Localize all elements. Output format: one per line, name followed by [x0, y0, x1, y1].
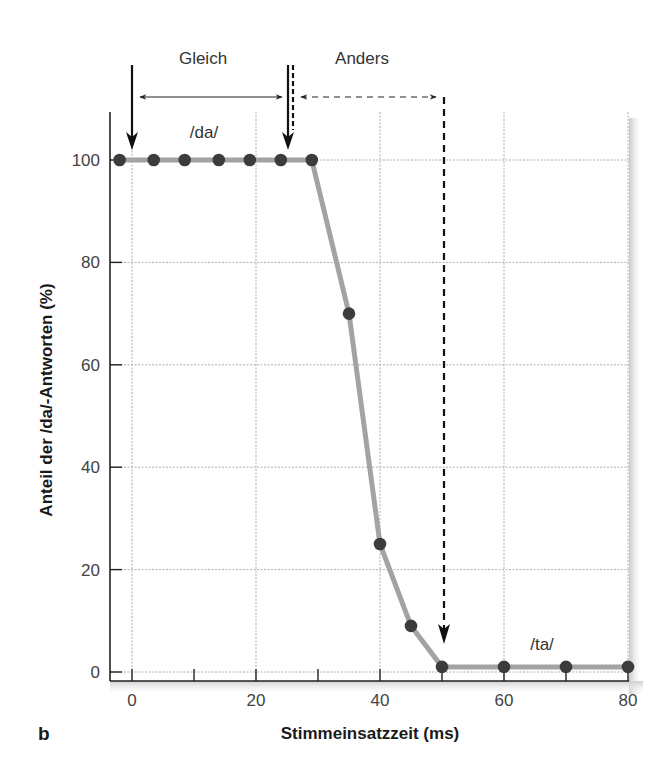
data-point	[244, 154, 257, 167]
label-phoneme-ta: /ta/	[530, 635, 554, 654]
data-point	[374, 538, 387, 551]
data-point	[343, 307, 356, 320]
y-tick-label: 80	[81, 253, 100, 272]
x-tick-label: 0	[127, 691, 136, 710]
y-tick-label: 20	[81, 561, 100, 580]
data-point	[405, 620, 418, 633]
panel-label: b	[38, 723, 50, 744]
data-point	[275, 154, 288, 167]
y-tick-label: 100	[72, 151, 100, 170]
data-point	[306, 154, 319, 167]
chart: 020406080100020406080 Gleich Anders /da/…	[0, 0, 666, 762]
panel-shadow-right	[629, 118, 643, 694]
data-point	[560, 661, 573, 674]
series-da-responses	[113, 154, 634, 673]
y-tick-label: 60	[81, 356, 100, 375]
x-tick-label: 60	[495, 691, 514, 710]
data-point	[178, 154, 191, 167]
data-point	[113, 154, 126, 167]
y-axis-title: Anteil der /da/-Antworten (%)	[37, 283, 56, 516]
data-point	[622, 661, 635, 674]
x-axis-title: Stimmeinsatzzeit (ms)	[281, 724, 460, 743]
y-tick-label: 0	[91, 663, 100, 682]
data-point	[147, 154, 160, 167]
x-tick-label: 20	[247, 691, 266, 710]
data-point	[436, 661, 449, 674]
data-point	[498, 661, 511, 674]
y-tick-label: 40	[81, 458, 100, 477]
label-phoneme-da: /da/	[190, 123, 219, 142]
tick-labels: 020406080100020406080	[72, 151, 638, 710]
series-line	[120, 160, 628, 667]
grid	[110, 112, 629, 681]
label-gleich: Gleich	[179, 49, 227, 68]
axes	[110, 112, 629, 681]
x-tick-label: 80	[619, 691, 638, 710]
data-point	[213, 154, 226, 167]
ticks	[110, 160, 628, 681]
annotations: Gleich Anders /da/ /ta/	[126, 49, 554, 654]
x-tick-label: 40	[371, 691, 390, 710]
label-anders: Anders	[335, 49, 389, 68]
